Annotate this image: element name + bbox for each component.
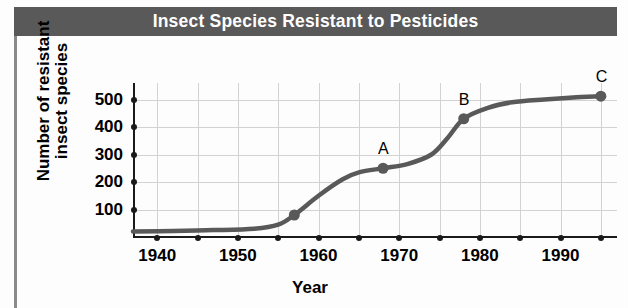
x-axis-tick-label: 1970 [364,246,434,266]
y-axis-tick-label: 300 [79,145,123,165]
gridline-horizontal [133,127,617,128]
x-axis-tick-label: 1990 [526,246,596,266]
x-axis-tick [477,235,483,241]
gridline-vertical [319,83,320,237]
y-axis-tick-label: 100 [79,200,123,220]
x-axis-title: Year [240,278,380,298]
x-axis-tick [437,235,443,241]
y-axis-tick [131,179,137,185]
data-point-label-b: B [459,91,470,109]
x-axis-tick [195,235,201,241]
y-axis-title: Number of resistant insect species [25,1,81,201]
y-axis-tick-label: 200 [79,172,123,192]
gridline-horizontal [133,100,617,101]
x-axis-tick [396,235,402,241]
gridline-vertical [561,83,562,237]
x-axis-tick [275,235,281,241]
y-axis-tick [131,124,137,130]
x-axis-tick-label: 1960 [284,246,354,266]
x-axis-line [133,236,617,238]
gridline-vertical [157,83,158,237]
gridline-vertical [480,83,481,237]
gridline-vertical [601,83,602,237]
x-axis-tick [235,235,241,241]
gridline-vertical [198,83,199,237]
gridline-horizontal [133,182,617,183]
x-axis-tick [517,235,523,241]
y-axis-tick [131,152,137,158]
y-axis-tick-label: 400 [79,117,123,137]
x-axis-tick [356,235,362,241]
y-axis-tick [131,207,137,213]
y-axis-tick [131,97,137,103]
data-point-label-a: A [378,140,389,158]
x-axis-tick [316,235,322,241]
x-axis-tick [558,235,564,241]
gridline-vertical [520,83,521,237]
gridline-vertical [359,83,360,237]
x-axis-tick-label: 1980 [445,246,515,266]
gridline-vertical [399,83,400,237]
gridline-horizontal [133,210,617,211]
chart-title: Insect Species Resistant to Pesticides [153,11,479,32]
y-axis-title-line-1: Number of resistant [35,21,53,182]
data-point-label-c: C [596,68,608,86]
x-axis-tick-label: 1940 [122,246,192,266]
figure-left-border [14,36,17,308]
gridline-vertical [278,83,279,237]
y-axis-tick-label: 500 [79,90,123,110]
x-axis-tick [154,235,160,241]
y-axis-title-line-2: insect species [53,43,71,159]
x-axis-tick-label: 1950 [203,246,273,266]
gridline-vertical [238,83,239,237]
gridline-vertical [440,83,441,237]
chart-figure: Insect Species Resistant to Pesticides N… [0,0,628,308]
chart-title-banner: Insect Species Resistant to Pesticides [14,7,617,36]
gridline-horizontal [133,155,617,156]
x-axis-tick [598,235,604,241]
plot-area [133,83,617,237]
y-axis-line [133,83,135,238]
